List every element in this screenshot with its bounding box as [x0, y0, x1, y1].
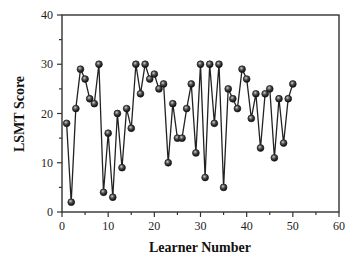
data-point-marker	[109, 194, 116, 201]
data-point-marker	[100, 189, 107, 196]
data-point-marker	[280, 140, 287, 147]
data-point-marker	[119, 164, 126, 171]
data-point-marker	[137, 90, 144, 97]
data-point-marker	[77, 66, 84, 73]
data-point-marker	[197, 61, 204, 68]
data-point-marker	[276, 95, 283, 102]
data-point-marker	[257, 145, 264, 152]
data-point-marker	[132, 61, 139, 68]
data-point-marker	[253, 90, 260, 97]
data-line	[67, 64, 293, 202]
line-chart: 0102030405060 010203040 Learner Number L…	[0, 0, 360, 264]
data-point-marker	[91, 100, 98, 107]
series-line	[67, 64, 293, 202]
x-axis: 0102030405060	[59, 212, 345, 233]
data-point-marker	[105, 130, 112, 137]
x-tick-label: 10	[102, 219, 114, 233]
data-point-marker	[123, 105, 130, 112]
data-point-marker	[271, 154, 278, 161]
data-point-marker	[128, 125, 135, 132]
data-point-marker	[243, 76, 250, 83]
y-tick-label: 10	[41, 156, 53, 170]
data-point-marker	[266, 85, 273, 92]
data-point-marker	[234, 105, 241, 112]
data-point-marker	[239, 66, 246, 73]
y-axis: 010203040	[41, 8, 62, 219]
data-point-marker	[72, 105, 79, 112]
x-tick-label: 50	[287, 219, 299, 233]
y-tick-label: 30	[41, 57, 53, 71]
data-point-marker	[216, 61, 223, 68]
y-tick-label: 0	[47, 205, 53, 219]
x-tick-label: 0	[59, 219, 65, 233]
data-point-marker	[165, 159, 172, 166]
data-point-marker	[248, 115, 255, 122]
x-tick-label: 20	[148, 219, 160, 233]
data-point-marker	[160, 81, 167, 88]
x-tick-label: 30	[195, 219, 207, 233]
data-point-marker	[68, 199, 75, 206]
data-point-marker	[82, 76, 89, 83]
data-point-marker	[179, 135, 186, 142]
data-point-marker	[289, 81, 296, 88]
data-point-marker	[229, 95, 236, 102]
y-axis-title: LSMT Score	[12, 76, 27, 152]
data-point-marker	[114, 110, 121, 117]
x-axis-title: Learner Number	[149, 240, 251, 255]
data-point-marker	[225, 85, 232, 92]
data-point-marker	[183, 105, 190, 112]
data-point-marker	[63, 120, 70, 127]
data-point-marker	[188, 81, 195, 88]
data-point-marker	[202, 174, 209, 181]
data-point-marker	[220, 184, 227, 191]
y-tick-label: 40	[41, 8, 53, 22]
data-point-marker	[151, 71, 158, 78]
data-point-marker	[192, 150, 199, 157]
x-tick-label: 40	[241, 219, 253, 233]
data-point-marker	[285, 95, 292, 102]
data-point-marker	[206, 61, 213, 68]
x-tick-label: 60	[333, 219, 345, 233]
y-tick-label: 20	[41, 107, 53, 121]
data-point-marker	[96, 61, 103, 68]
data-point-marker	[169, 100, 176, 107]
data-point-marker	[211, 120, 218, 127]
data-point-marker	[142, 61, 149, 68]
